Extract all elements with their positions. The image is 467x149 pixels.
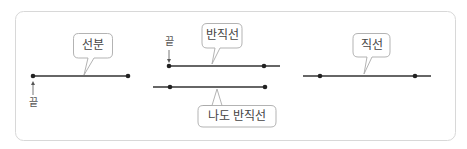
diagram-canvas xyxy=(0,0,467,149)
ray-other-label: 나도 반직선 xyxy=(198,110,276,122)
segment-end-label: 끝 xyxy=(26,98,40,108)
ray-end-label: 끝 xyxy=(162,37,176,47)
line-label: 직선 xyxy=(353,39,390,51)
ray-label: 반직선 xyxy=(202,29,242,41)
segment-label: 선분 xyxy=(73,39,113,51)
